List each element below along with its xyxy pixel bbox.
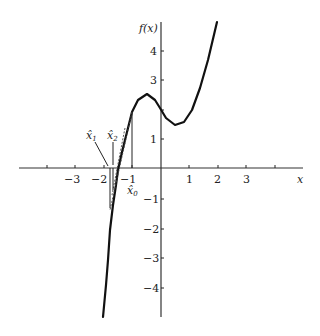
y-tick-label: −1 — [143, 193, 159, 206]
newton-method-diagram: −3 −2 −1 1 2 3 x 4 3 1 −1 −2 −3 −4 f(x) … — [0, 0, 320, 336]
function-curve — [103, 22, 217, 317]
x1-pointer — [95, 142, 108, 166]
x1-label: x̂1 — [86, 129, 97, 143]
x-tick-label: −3 — [64, 173, 80, 186]
y-tick-label: −3 — [143, 252, 159, 265]
y-tick-label: 3 — [150, 74, 157, 87]
x-tick-label: 1 — [186, 173, 193, 186]
x0-label: x̂0 — [127, 184, 138, 198]
x-tick-label: −2 — [91, 173, 107, 186]
y-tick-label: −4 — [143, 282, 159, 295]
x-axis-label: x — [297, 173, 304, 186]
y-tick-label: −2 — [143, 223, 159, 236]
y-axis-label: f(x) — [138, 22, 158, 35]
x2-label: x̂2 — [107, 129, 118, 143]
x-tick-label: 3 — [243, 173, 250, 186]
x-tick-label: 2 — [214, 173, 221, 186]
y-tick-label: 1 — [150, 133, 157, 146]
y-tick-label: 4 — [150, 45, 157, 58]
